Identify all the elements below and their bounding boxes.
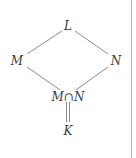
edge-N-MN — [76, 67, 108, 90]
right-border-divider — [131, 0, 132, 158]
edge-L-N — [75, 31, 108, 54]
node-M-intersect-N: M∩N — [52, 91, 85, 103]
node-L: L — [64, 20, 72, 32]
edge-L-M — [27, 31, 62, 54]
node-M: M — [11, 55, 23, 67]
lattice-diagram: L M N M∩N K — [0, 0, 136, 158]
edge-M-MN — [27, 67, 60, 90]
node-K: K — [64, 125, 73, 137]
edge-MN-K-double — [67, 102, 70, 122]
node-N: N — [111, 55, 122, 67]
